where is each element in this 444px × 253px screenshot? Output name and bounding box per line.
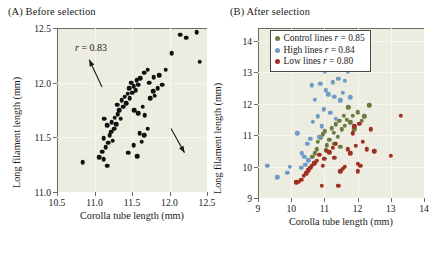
gridline-horizontal — [258, 72, 424, 73]
x-axis-tick-label: 12.0 — [161, 197, 178, 208]
legend-item-low-lines[interactable]: Low lines r = 0.80 — [275, 56, 365, 68]
y-axis-tick — [254, 41, 258, 42]
y-axis-tick-label: 13 — [220, 67, 252, 78]
panel-b-label: (B) After selection — [230, 6, 310, 17]
data-point — [131, 143, 136, 148]
y-axis-tick — [254, 167, 258, 168]
data-point — [112, 126, 117, 131]
data-point — [127, 96, 132, 101]
data-point — [114, 122, 119, 127]
gridline-horizontal — [57, 137, 207, 138]
x-axis-tick — [258, 198, 259, 202]
correlation-annotation: r = 0.83 — [75, 42, 107, 53]
legend-item-label: High lines r = 0.84 — [284, 45, 355, 57]
gridline-horizontal — [258, 135, 424, 136]
data-point — [152, 93, 157, 98]
data-point — [139, 139, 144, 144]
data-point — [100, 149, 105, 154]
data-point — [197, 60, 202, 65]
data-point — [118, 116, 123, 121]
data-point — [102, 116, 107, 121]
y-axis-tick — [254, 135, 258, 136]
y-axis-title: Long filament length (mm) — [11, 77, 22, 188]
y-axis-tick — [254, 72, 258, 73]
x-axis-tick-label: 12 — [353, 203, 363, 214]
x-axis-tick-label: 12.5 — [199, 197, 216, 208]
y-axis-title: Long filament length (mm) — [212, 83, 223, 194]
data-point — [105, 163, 110, 168]
x-axis-title: Corolla tube length (mm) — [289, 216, 393, 227]
y-axis-tick — [53, 137, 57, 138]
legend-item-label: Control lines r = 0.85 — [284, 33, 365, 45]
y-axis-tick-label: 11 — [220, 130, 252, 141]
figure-root: (A) Before selection 10.511.011.512.012.… — [0, 0, 444, 253]
data-point — [136, 83, 141, 88]
x-axis-tick — [324, 198, 325, 202]
x-axis-tick — [132, 192, 133, 196]
x-axis-tick-label: 11.5 — [124, 197, 140, 208]
data-point — [110, 138, 115, 143]
data-point — [178, 32, 183, 37]
data-point — [115, 102, 120, 107]
y-axis-tick — [53, 192, 57, 193]
legend-marker-icon — [275, 48, 280, 53]
x-axis-tick-label: 11.0 — [86, 197, 102, 208]
data-point — [157, 73, 162, 78]
data-point — [142, 133, 147, 138]
x-axis-tick-label: 10 — [286, 203, 296, 214]
data-point — [129, 80, 134, 85]
data-point — [124, 101, 129, 106]
y-axis-tick-label: 11.0 — [19, 187, 51, 198]
panel-a: (A) Before selection 10.511.011.512.012.… — [0, 0, 222, 253]
y-axis-tick — [254, 104, 258, 105]
x-axis-tick-label: 13 — [386, 203, 396, 214]
panel-b: (B) After selection 91011121314910111213… — [222, 0, 444, 253]
y-axis-tick-label: 12 — [220, 98, 252, 109]
data-point — [101, 157, 106, 162]
data-point — [160, 83, 165, 88]
x-axis-tick — [424, 198, 425, 202]
data-point — [135, 154, 140, 159]
data-point — [145, 67, 150, 72]
y-axis-tick-label: 11.5 — [19, 132, 51, 143]
x-axis-tick — [358, 198, 359, 202]
legend-item-control-lines[interactable]: Control lines r = 0.85 — [275, 33, 365, 45]
y-axis-tick-label: 10 — [220, 161, 252, 172]
data-point — [142, 113, 147, 118]
data-point — [126, 150, 131, 155]
x-axis-tick — [95, 192, 96, 196]
data-point — [103, 145, 108, 150]
panel-a-label: (A) Before selection — [8, 6, 96, 17]
data-point — [101, 136, 106, 141]
data-point — [136, 111, 141, 116]
y-axis-tick — [53, 83, 57, 84]
x-axis-tick — [291, 198, 292, 202]
y-axis-tick-label: 12.5 — [19, 23, 51, 34]
x-axis-tick-label: 11 — [320, 203, 329, 214]
x-axis-tick — [207, 192, 208, 196]
y-axis-tick — [254, 198, 258, 199]
y-axis-tick-label: 14 — [220, 35, 252, 46]
x-axis-tick — [170, 192, 171, 196]
legend-marker-icon — [275, 36, 280, 41]
legend-item-high-lines[interactable]: High lines r = 0.84 — [275, 45, 365, 57]
x-axis-tick-label: 10.5 — [49, 197, 66, 208]
data-point — [145, 126, 150, 131]
x-axis-tick — [391, 198, 392, 202]
data-point — [140, 104, 145, 109]
data-point — [169, 51, 174, 56]
data-point — [138, 76, 143, 81]
data-point — [147, 80, 152, 85]
y-axis-tick — [53, 28, 57, 29]
y-axis-tick-label: 9 — [220, 193, 252, 204]
legend-marker-icon — [275, 59, 280, 64]
gridline-horizontal — [258, 104, 424, 105]
x-axis-title: Corolla tube length (mm) — [80, 210, 184, 221]
data-point — [151, 75, 156, 80]
x-axis-tick-label: 9 — [256, 203, 261, 214]
x-axis-tick — [57, 192, 58, 196]
x-axis-tick-label: 14 — [419, 203, 429, 214]
gridline-vertical — [391, 28, 392, 198]
data-point — [163, 67, 168, 72]
legend-item-label: Low lines r = 0.80 — [284, 56, 354, 68]
